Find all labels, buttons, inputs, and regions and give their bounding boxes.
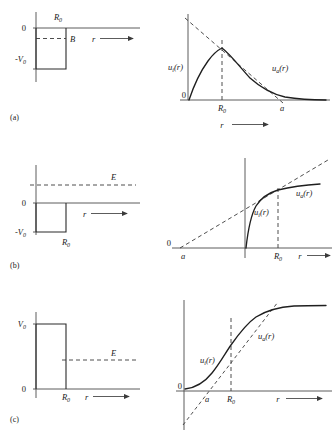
- panel-a-potential: 0 R0 B -V0 r: [15, 12, 140, 82]
- wave-a-outer-label: ua(r): [272, 63, 288, 74]
- potential-a-axis-label: r: [92, 34, 96, 44]
- potential-c-radius-label: R0: [61, 392, 70, 403]
- panel-tag-b: (b): [10, 261, 20, 270]
- panel-tag-a: (a): [10, 113, 19, 122]
- potential-a-zero-label: 0: [22, 23, 26, 33]
- wave-c-radius-label: R0: [226, 394, 235, 405]
- wave-b-scattering-label: a: [181, 251, 185, 261]
- potential-c-height-label: V0: [18, 319, 26, 330]
- potential-c-energy-label: E: [110, 348, 117, 358]
- panel-c-potential: V0 0 E R0 r: [18, 312, 140, 403]
- wave-c-axis-label: r: [276, 394, 280, 404]
- potential-b-radius-label: R0: [61, 237, 70, 248]
- wave-a-inner-label: ui(r): [168, 62, 183, 73]
- potential-c-barrier-outline: [36, 324, 66, 389]
- wave-b-zero-label: 0: [167, 238, 171, 248]
- physics-figure: 0 R0 B -V0 r (a) 0 ui(r) ua(r) R0 a r: [0, 0, 335, 441]
- wave-c-curve: [185, 306, 326, 390]
- panel-b-potential: 0 E -V0 R0 r: [15, 165, 140, 248]
- potential-c-axis-label: r: [85, 392, 89, 402]
- wave-b-radius-label: R0: [273, 251, 282, 262]
- well-outline: [36, 28, 66, 69]
- panel-tag-c: (c): [10, 415, 19, 424]
- wave-c-zero-label: 0: [178, 381, 182, 391]
- wave-b-outer-label: ua(r): [296, 188, 312, 199]
- wave-a-axis-label: r: [220, 120, 224, 130]
- wave-b-inner-label: ui(r): [254, 207, 269, 218]
- potential-b-energy-label: E: [110, 172, 117, 182]
- wave-a-radius-label: R0: [217, 103, 226, 114]
- potential-c-zero-label: 0: [22, 384, 26, 394]
- potential-a-level-label: B: [70, 34, 75, 44]
- wave-a-curve: [189, 48, 326, 100]
- potential-b-zero-label: 0: [22, 198, 26, 208]
- wave-b-axis-label: r: [298, 251, 302, 261]
- panel-c-wavefunction: 0 a R0 ui(r) ua(r) r: [176, 300, 332, 430]
- wave-c-outer-label: ua(r): [258, 331, 274, 342]
- potential-b-well-outline: [36, 203, 66, 232]
- panel-b-wavefunction: 0 a ui(r) ua(r) R0 r: [167, 158, 332, 262]
- potential-a-depth-label: -V0: [15, 54, 26, 65]
- wave-c-inner-label: ui(r): [200, 355, 215, 366]
- potential-b-axis-label: r: [83, 209, 87, 219]
- wave-c-asymptote: [183, 302, 278, 425]
- wave-a-scattering-label: a: [280, 103, 284, 113]
- potential-a-radius-label: R0: [53, 12, 62, 23]
- panel-a-wavefunction: 0 ui(r) ua(r) R0 a r: [168, 14, 330, 130]
- potential-b-depth-label: -V0: [15, 227, 26, 238]
- wave-b-asymptote: [180, 160, 328, 248]
- wave-c-scattering-label: a: [205, 394, 209, 404]
- wave-a-zero-label: 0: [182, 90, 186, 100]
